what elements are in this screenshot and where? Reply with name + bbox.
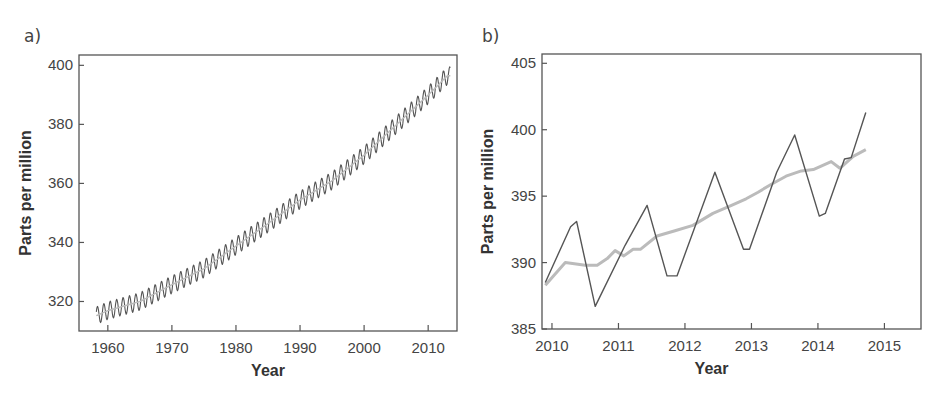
seasonally-corrected-line bbox=[545, 150, 866, 286]
y-tick-label: 400 bbox=[48, 56, 73, 73]
plot-frame bbox=[542, 54, 921, 329]
x-tick-label: 2011 bbox=[602, 337, 634, 354]
x-tick-label: 2012 bbox=[668, 337, 701, 354]
y-tick-label: 385 bbox=[511, 320, 536, 337]
y-axis-title: Parts per million bbox=[479, 129, 496, 254]
x-tick-label: 2010 bbox=[411, 339, 444, 356]
y-tick-label: 340 bbox=[48, 233, 73, 250]
x-tick-label: 2014 bbox=[801, 337, 834, 354]
x-axis-title: Year bbox=[695, 360, 729, 377]
chart-panel-a: a) 3203403603804001960197019801990200020… bbox=[0, 0, 470, 396]
x-tick-label: 1960 bbox=[91, 339, 124, 356]
x-tick-label: 1990 bbox=[283, 339, 316, 356]
x-tick-label: 2010 bbox=[535, 337, 568, 354]
y-tick-label: 380 bbox=[48, 115, 73, 132]
chart-b-plot: 385390395400405201020112012201320142015Y… bbox=[470, 0, 941, 396]
chart-panel-b: b) 3853903954004052010201120122013201420… bbox=[470, 0, 941, 396]
x-tick-label: 1980 bbox=[219, 339, 252, 356]
co2-trend-line bbox=[96, 76, 450, 316]
y-tick-label: 400 bbox=[511, 121, 536, 138]
y-axis-title: Parts per million bbox=[17, 130, 34, 255]
y-tick-label: 405 bbox=[511, 54, 536, 71]
chart-a-plot: 320340360380400196019701980199020002010Y… bbox=[0, 0, 470, 396]
x-tick-label: 2013 bbox=[735, 337, 768, 354]
y-tick-label: 320 bbox=[48, 292, 73, 309]
x-axis-title: Year bbox=[251, 362, 285, 379]
monthly-mean-line bbox=[545, 113, 866, 307]
co2-monthly-line bbox=[96, 67, 450, 323]
y-tick-label: 360 bbox=[48, 174, 73, 191]
plot-frame bbox=[79, 55, 457, 331]
x-tick-label: 2000 bbox=[347, 339, 380, 356]
x-tick-label: 1970 bbox=[155, 339, 188, 356]
y-tick-label: 395 bbox=[511, 187, 536, 204]
y-tick-label: 390 bbox=[511, 254, 536, 271]
x-tick-label: 2015 bbox=[868, 337, 901, 354]
